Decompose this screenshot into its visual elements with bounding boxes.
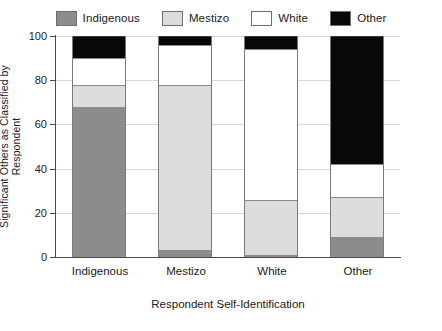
legend-item-mestizo: Mestizo (162, 11, 229, 26)
legend-label-mestizo: Mestizo (189, 12, 229, 24)
bar-mestizo[interactable]: Mestizo (158, 36, 212, 257)
segment-white[interactable] (73, 58, 125, 85)
segment-mestizo[interactable] (159, 85, 211, 251)
y-tick-label: 80 (35, 74, 47, 86)
y-tick-mark (50, 213, 55, 214)
y-axis-line (55, 35, 56, 258)
segment-other[interactable] (159, 36, 211, 45)
segment-indigenous[interactable] (245, 255, 297, 257)
y-tick-label: 40 (35, 163, 47, 175)
bar-white[interactable]: White (244, 36, 298, 257)
x-axis-line (55, 257, 401, 258)
y-tick-label: 100 (29, 30, 47, 42)
legend-swatch-white (251, 11, 272, 26)
x-tick-label-other: Other (303, 265, 413, 277)
legend-item-indigenous: Indigenous (56, 11, 140, 26)
segment-other[interactable] (245, 36, 297, 49)
segment-mestizo[interactable] (73, 85, 125, 107)
y-tick-mark (50, 257, 55, 258)
stacked-bar-chart-figure: Indigenous Mestizo White Other Significa… (0, 0, 442, 331)
legend-swatch-mestizo (162, 11, 183, 26)
y-tick-mark (50, 124, 55, 125)
segment-other[interactable] (73, 36, 125, 58)
y-tick-label: 20 (35, 207, 47, 219)
segment-white[interactable] (159, 45, 211, 85)
legend-label-other: Other (357, 12, 386, 24)
x-axis-title: Respondent Self-Identification (56, 298, 400, 310)
bar-other[interactable]: Other (330, 36, 384, 257)
segment-indigenous[interactable] (159, 250, 211, 257)
y-tick-mark (50, 169, 55, 170)
legend-item-other: Other (330, 11, 386, 26)
segment-other[interactable] (331, 36, 383, 164)
plot-area: 020406080100 IndigenousMestizoWhiteOther (56, 36, 400, 257)
y-tick-mark (50, 80, 55, 81)
segment-white[interactable] (245, 49, 297, 199)
legend-item-white: White (251, 11, 308, 26)
segment-indigenous[interactable] (331, 237, 383, 257)
y-tick-label: 0 (41, 251, 47, 263)
y-tick-mark (50, 36, 55, 37)
chart-legend: Indigenous Mestizo White Other (0, 6, 442, 30)
bar-indigenous[interactable]: Indigenous (72, 36, 126, 257)
legend-swatch-other (330, 11, 351, 26)
segment-mestizo[interactable] (245, 200, 297, 255)
legend-label-indigenous: Indigenous (83, 12, 140, 24)
segment-white[interactable] (331, 164, 383, 197)
segment-indigenous[interactable] (73, 107, 125, 257)
segment-mestizo[interactable] (331, 197, 383, 237)
y-tick-label: 60 (35, 118, 47, 130)
legend-swatch-indigenous (56, 11, 77, 26)
y-axis-title: Significant Others as Classified by Resp… (0, 36, 14, 257)
legend-label-white: White (278, 12, 308, 24)
